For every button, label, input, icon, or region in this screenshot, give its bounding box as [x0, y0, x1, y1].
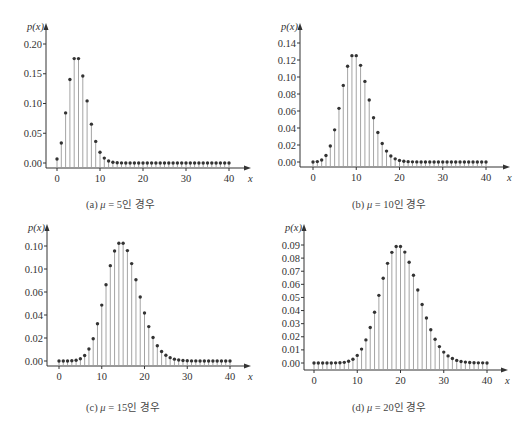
- data-point: [343, 361, 346, 364]
- data-point: [117, 242, 120, 245]
- data-point: [215, 359, 218, 362]
- y-tick-label: 0.03: [282, 318, 300, 329]
- data-point: [468, 361, 471, 364]
- y-tick-label: 0.12: [278, 55, 296, 66]
- chart-d: 0.000.010.020.030.040.050.060.070.080.09…: [282, 222, 510, 386]
- y-tick-label: 0.15: [24, 68, 42, 79]
- caption-text: = 15인 경우: [106, 402, 160, 413]
- x-tick-label: 30: [438, 172, 449, 183]
- data-point: [223, 161, 226, 164]
- data-point: [455, 359, 458, 362]
- data-point: [126, 249, 129, 252]
- data-point: [116, 161, 119, 164]
- data-point: [224, 359, 227, 362]
- data-point: [197, 161, 200, 164]
- data-point: [180, 161, 183, 164]
- data-point: [432, 160, 435, 163]
- data-point: [377, 294, 380, 297]
- data-point: [130, 262, 133, 265]
- data-point: [87, 347, 90, 350]
- data-point: [202, 161, 205, 164]
- y-tick-label: 0.06: [278, 106, 296, 117]
- data-point: [351, 357, 354, 360]
- x-axis-arrow-icon: [503, 165, 510, 170]
- data-point: [150, 161, 153, 164]
- data-point: [355, 54, 358, 57]
- data-point: [463, 160, 466, 163]
- data-point: [481, 361, 484, 364]
- data-point: [333, 128, 336, 131]
- data-point: [472, 361, 475, 364]
- y-axis-arrow-icon: [44, 23, 49, 30]
- data-point: [193, 161, 196, 164]
- data-point: [57, 359, 60, 362]
- y-tick-label: 0.10: [25, 241, 43, 252]
- data-point: [104, 283, 107, 286]
- data-point: [90, 122, 93, 125]
- data-point: [163, 161, 166, 164]
- poisson-figure: 0.000.050.100.150.20010203040xp(x)0.000.…: [0, 0, 529, 434]
- y-tick-label: 0.07: [282, 266, 300, 277]
- data-point: [154, 161, 157, 164]
- data-point: [386, 262, 389, 265]
- data-point: [73, 57, 76, 60]
- data-point: [484, 160, 487, 163]
- data-point: [85, 99, 88, 102]
- data-point: [143, 311, 146, 314]
- data-point: [194, 359, 197, 362]
- x-axis-arrow-icon: [244, 166, 251, 171]
- data-point: [317, 361, 320, 364]
- data-point: [206, 161, 209, 164]
- y-tick-label: 0.02: [25, 333, 43, 344]
- y-tick-label: 0.00: [25, 356, 43, 367]
- y-axis-arrow-icon: [298, 23, 303, 30]
- data-point: [186, 359, 189, 362]
- data-point: [325, 361, 328, 364]
- data-point: [139, 295, 142, 298]
- x-tick-label: 0: [310, 172, 315, 183]
- data-point: [107, 159, 110, 162]
- data-point: [373, 311, 376, 314]
- y-axis-label: p(x): [26, 21, 44, 33]
- data-point: [420, 303, 423, 306]
- data-point: [372, 116, 375, 119]
- data-point: [312, 361, 315, 364]
- data-point: [424, 160, 427, 163]
- data-point: [184, 161, 187, 164]
- data-point: [79, 357, 82, 360]
- y-tick-label: 0.01: [282, 344, 300, 355]
- data-point: [120, 161, 123, 164]
- data-point: [111, 161, 114, 164]
- data-point: [320, 158, 323, 161]
- data-point: [376, 131, 379, 134]
- x-axis-label: x: [247, 173, 253, 184]
- x-tick-label: 20: [394, 172, 405, 183]
- y-tick-label: 0.08: [282, 253, 300, 264]
- x-tick-label: 40: [225, 371, 236, 382]
- data-point: [364, 338, 367, 341]
- y-tick-label: 0.06: [25, 287, 43, 298]
- data-point: [446, 354, 449, 357]
- data-point: [334, 361, 337, 364]
- data-point: [459, 360, 462, 363]
- data-point: [176, 161, 179, 164]
- data-point: [177, 358, 180, 361]
- figure-caption-cropped: [180, 428, 360, 434]
- caption-prefix: (d): [352, 402, 367, 413]
- data-point: [168, 356, 171, 359]
- data-point: [360, 347, 363, 350]
- y-tick-label: 0.02: [282, 331, 300, 342]
- data-point: [55, 157, 58, 160]
- x-tick-label: 0: [54, 173, 59, 184]
- y-axis-label: p(x): [27, 222, 45, 234]
- data-point: [100, 303, 103, 306]
- data-point: [128, 161, 131, 164]
- y-tick-label: 0.10: [278, 72, 296, 83]
- y-tick-label: 0.00: [282, 358, 300, 369]
- data-point: [477, 361, 480, 364]
- y-tick-label: 0.00: [24, 158, 42, 169]
- caption-prefix: (a): [86, 199, 100, 210]
- caption-a: (a) μ = 5인 경우: [86, 196, 155, 211]
- data-point: [81, 74, 84, 77]
- data-point: [214, 161, 217, 164]
